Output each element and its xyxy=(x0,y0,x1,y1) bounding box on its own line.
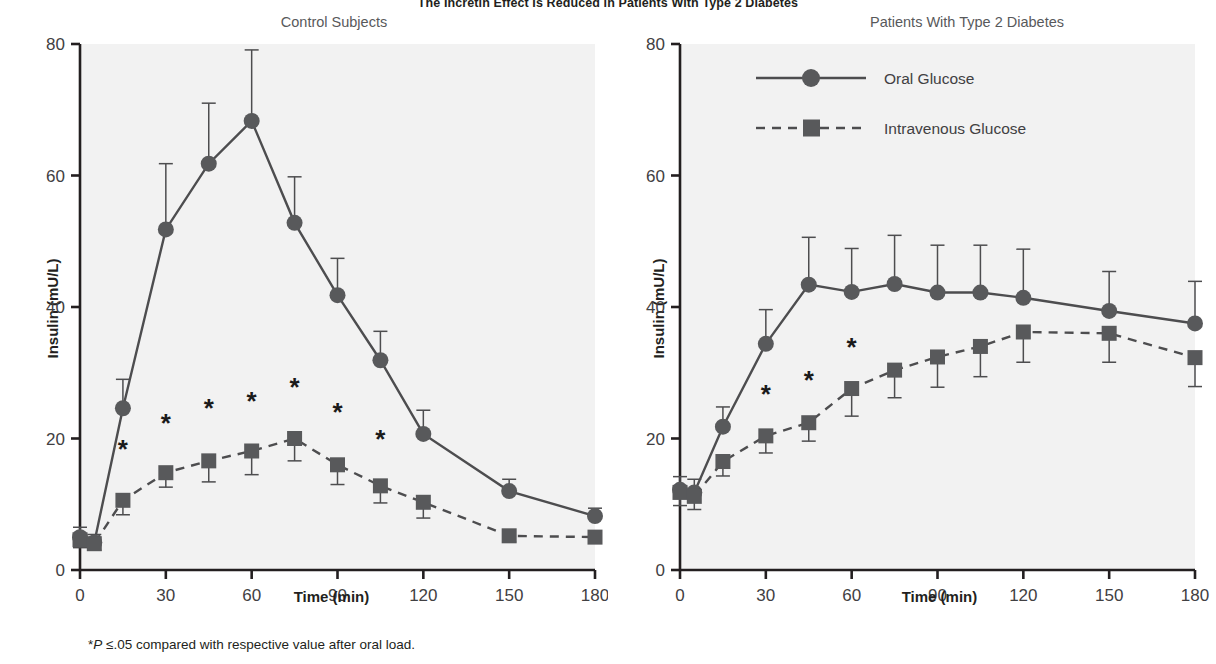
footnote-text: ≤.05 compared with respective value afte… xyxy=(102,637,415,652)
data-point-marker xyxy=(1102,326,1117,341)
data-point-marker xyxy=(973,339,988,354)
data-point-marker xyxy=(287,431,302,446)
data-point-marker xyxy=(73,532,88,547)
data-point-marker xyxy=(373,478,388,493)
data-point-marker xyxy=(330,457,345,472)
significance-asterisk: * xyxy=(161,408,172,438)
significance-asterisk: * xyxy=(375,424,386,454)
data-point-marker xyxy=(758,428,773,443)
legend-marker-square-icon xyxy=(803,120,820,137)
data-point-marker xyxy=(1016,324,1031,339)
significance-asterisk: * xyxy=(332,397,343,427)
significance-asterisk: * xyxy=(847,332,858,362)
y-tick-label: 80 xyxy=(46,35,65,54)
y-tick-label: 40 xyxy=(646,298,665,317)
data-point-marker xyxy=(930,349,945,364)
y-tick-label: 20 xyxy=(46,430,65,449)
significance-asterisk: * xyxy=(761,379,772,409)
y-tick-label: 60 xyxy=(46,167,65,186)
data-point-marker xyxy=(844,284,860,300)
y-tick-label: 40 xyxy=(46,298,65,317)
significance-asterisk: * xyxy=(118,434,129,464)
x-axis-label-right: Time (min) xyxy=(608,588,1216,605)
data-point-marker xyxy=(115,493,130,508)
legend-label-oral-glucose: Oral Glucose xyxy=(884,70,974,87)
data-point-marker xyxy=(372,352,388,368)
data-point-marker xyxy=(158,221,174,237)
significance-asterisk: * xyxy=(804,365,815,395)
data-point-marker xyxy=(1187,315,1203,331)
data-point-marker xyxy=(502,528,517,543)
data-point-marker xyxy=(801,277,817,293)
data-point-marker xyxy=(416,495,431,510)
data-point-marker xyxy=(715,419,731,435)
data-point-marker xyxy=(201,156,217,172)
data-point-marker xyxy=(587,508,603,524)
data-point-marker xyxy=(1188,350,1203,365)
plot-background xyxy=(80,44,595,570)
plot-area-right: 0204060800306090120150180***Oral Glucose… xyxy=(608,0,1216,620)
data-point-marker xyxy=(330,287,346,303)
legend-label-intravenous-glucose: Intravenous Glucose xyxy=(884,120,1026,137)
data-point-marker xyxy=(415,426,431,442)
data-point-marker xyxy=(972,285,988,301)
data-point-marker xyxy=(158,465,173,480)
significance-asterisk: * xyxy=(204,393,215,423)
data-point-marker xyxy=(1015,290,1031,306)
figure-root: The Incretin Effect Is Reduced in Patien… xyxy=(0,0,1216,664)
data-point-marker xyxy=(887,363,902,378)
data-point-marker xyxy=(801,415,816,430)
data-point-marker xyxy=(844,381,859,396)
data-point-marker xyxy=(1101,303,1117,319)
y-tick-label: 0 xyxy=(56,561,65,580)
data-point-marker xyxy=(201,453,216,468)
plot-area-left: 0204060800306090120150180******* xyxy=(0,0,608,620)
chart-panel-control-subjects: Control Subjects Insulin (mU/L) 02040608… xyxy=(0,0,608,620)
data-point-marker xyxy=(244,443,259,458)
data-point-marker xyxy=(115,400,131,416)
data-point-marker xyxy=(287,215,303,231)
data-point-marker xyxy=(673,485,688,500)
legend-marker-circle-icon xyxy=(802,69,820,87)
data-point-marker xyxy=(887,276,903,292)
data-point-marker xyxy=(687,489,702,504)
y-tick-label: 0 xyxy=(656,561,665,580)
y-tick-label: 60 xyxy=(646,167,665,186)
x-axis-label-left: Time (min) xyxy=(0,588,608,605)
data-point-marker xyxy=(588,530,603,545)
data-point-marker xyxy=(87,536,102,551)
data-point-marker xyxy=(758,336,774,352)
significance-asterisk: * xyxy=(290,372,301,402)
chart-panel-type2-diabetes: Patients With Type 2 Diabetes Insulin (m… xyxy=(608,0,1216,620)
significance-asterisk: * xyxy=(247,386,258,416)
y-tick-label: 20 xyxy=(646,430,665,449)
y-tick-label: 80 xyxy=(646,35,665,54)
footnote-p-italic: P xyxy=(93,637,102,652)
data-point-marker xyxy=(244,113,260,129)
data-point-marker xyxy=(930,285,946,301)
figure-footnote: *P ≤.05 compared with respective value a… xyxy=(88,637,415,652)
data-point-marker xyxy=(501,483,517,499)
data-point-marker xyxy=(715,454,730,469)
